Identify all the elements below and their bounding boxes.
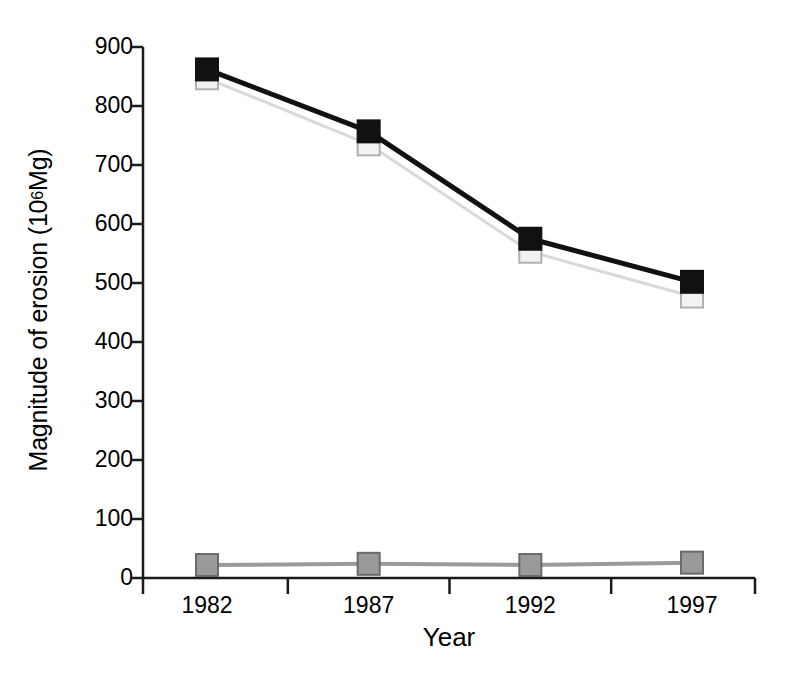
series-marker [196,554,218,576]
x-tick-label: 1997 [632,592,752,619]
series-marker [358,553,380,575]
data-series [196,58,703,576]
series-marker [196,58,218,80]
x-axis-title: Year [143,622,755,653]
series-marker [519,554,541,576]
y-tick-label: 900 [73,35,133,58]
series-total-erosion-black [196,58,703,292]
series-marker [681,552,703,574]
series-marker [358,120,380,142]
series-marker [519,228,541,250]
axes [132,47,755,594]
y-axis-tick-labels: 0100200300400500600700800900 [55,0,133,690]
y-tick-label: 200 [73,448,133,471]
y-tick-label: 800 [73,94,133,117]
y-tick-label: 300 [73,389,133,412]
erosion-line-chart: Magnitude of erosion (106 Mg) 0100200300… [0,0,790,690]
y-axis-title-tail: Mg) [24,149,53,191]
series-line [207,563,692,565]
x-tick-label: 1992 [470,592,590,619]
y-axis-title: Magnitude of erosion (106 Mg) [18,30,58,590]
y-axis-title-base: Magnitude of erosion (10 [24,200,53,472]
x-tick-label: 1982 [147,592,267,619]
series-marker [681,271,703,293]
series-line [207,69,692,281]
y-tick-label: 400 [73,330,133,353]
series-wind-erosion-gray [196,552,703,576]
y-tick-label: 0 [73,566,133,589]
y-tick-label: 600 [73,212,133,235]
y-tick-label: 100 [73,507,133,530]
y-tick-label: 700 [73,153,133,176]
y-tick-label: 500 [73,271,133,294]
x-tick-label: 1987 [309,592,429,619]
